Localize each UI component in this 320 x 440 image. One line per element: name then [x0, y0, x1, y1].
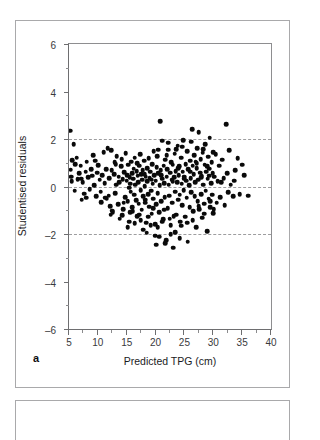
data-point	[166, 147, 171, 152]
data-point	[232, 178, 237, 183]
y-tick-label: –2	[45, 230, 56, 241]
data-point	[160, 219, 165, 224]
data-point	[205, 164, 210, 169]
scatter-plot-frame: 6420–2–4–6	[68, 43, 272, 330]
data-point	[156, 147, 161, 152]
data-point	[168, 170, 173, 175]
data-point	[100, 173, 105, 178]
data-point	[155, 225, 160, 230]
x-tick: 15	[126, 330, 127, 335]
y-tick-minor	[66, 258, 69, 259]
x-tick-minor	[169, 330, 170, 333]
data-point	[206, 155, 211, 160]
data-point	[70, 179, 75, 184]
data-point	[179, 155, 184, 160]
data-point	[123, 151, 128, 156]
data-point	[158, 119, 163, 124]
data-point	[112, 160, 117, 165]
data-point	[183, 215, 188, 220]
x-tick-minor	[198, 330, 199, 333]
data-point	[202, 212, 207, 217]
data-point	[90, 174, 95, 179]
data-point	[212, 207, 217, 212]
data-point	[150, 178, 155, 183]
x-tick: 35	[241, 330, 242, 335]
data-point	[109, 148, 114, 153]
data-point	[185, 149, 190, 154]
data-point	[144, 231, 149, 236]
data-point	[167, 193, 172, 198]
x-tick-minor	[140, 330, 141, 333]
data-point	[122, 200, 127, 205]
data-point	[199, 192, 204, 197]
data-point	[159, 173, 164, 178]
data-point	[132, 193, 137, 198]
data-point	[187, 183, 192, 188]
data-point	[238, 192, 243, 197]
data-point	[95, 170, 100, 175]
data-point	[218, 195, 223, 200]
data-point	[233, 168, 238, 173]
data-point	[155, 154, 160, 159]
data-point	[162, 207, 167, 212]
x-tick: 20	[155, 330, 156, 335]
data-point	[91, 153, 96, 158]
data-point	[201, 182, 206, 187]
data-point	[143, 197, 148, 202]
x-tick: 25	[183, 330, 184, 335]
data-point	[208, 199, 213, 204]
data-point	[87, 187, 92, 192]
data-point	[168, 223, 173, 228]
data-point	[205, 229, 210, 234]
data-point	[190, 127, 195, 132]
data-point	[240, 162, 245, 167]
x-tick-label: 10	[92, 337, 103, 348]
data-point	[171, 245, 176, 250]
data-point	[191, 209, 196, 214]
y-tick: –4	[64, 282, 69, 283]
data-point	[132, 221, 137, 226]
data-point	[242, 173, 247, 178]
data-point	[69, 168, 73, 173]
data-point	[209, 181, 214, 186]
data-point	[177, 236, 182, 241]
data-point	[225, 171, 230, 176]
data-point	[209, 160, 214, 165]
y-tick-label: 4	[50, 87, 56, 98]
data-point	[157, 210, 162, 215]
data-point	[110, 208, 115, 213]
data-point	[135, 161, 140, 166]
data-point	[200, 216, 205, 221]
data-point	[149, 188, 154, 193]
data-point	[210, 193, 215, 198]
data-point	[211, 150, 216, 155]
data-point	[166, 140, 171, 145]
data-point	[194, 166, 199, 171]
data-point	[195, 161, 200, 166]
x-tick-minor	[256, 330, 257, 333]
data-point	[191, 218, 196, 223]
y-tick-minor	[66, 68, 69, 69]
y-tick: 6	[64, 44, 69, 45]
data-point	[180, 144, 185, 149]
data-point	[128, 210, 133, 215]
data-point	[196, 204, 201, 209]
data-point	[101, 150, 106, 155]
data-point	[188, 176, 193, 181]
data-point	[99, 200, 104, 205]
data-point	[174, 147, 179, 152]
data-point	[116, 202, 121, 207]
data-point	[143, 172, 148, 177]
data-point	[185, 220, 190, 225]
data-point	[120, 213, 125, 218]
data-point	[78, 163, 83, 168]
data-point	[107, 193, 112, 198]
x-tick-label: 5	[66, 337, 72, 348]
data-point	[214, 200, 219, 205]
data-point	[77, 171, 82, 176]
data-point	[138, 152, 143, 157]
data-point	[176, 166, 181, 171]
data-point	[170, 200, 175, 205]
data-point	[211, 211, 216, 216]
data-point	[212, 174, 217, 179]
